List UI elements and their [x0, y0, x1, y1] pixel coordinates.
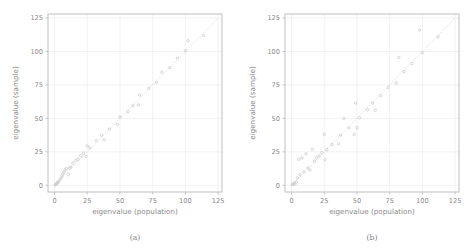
- y-axis-title-a: eigenvalue (sample): [11, 66, 20, 140]
- x-tick-label: 50: [116, 197, 124, 205]
- x-tick-label: 0: [289, 197, 293, 205]
- y-tick-label: 0: [276, 182, 280, 190]
- y-tick-label: 75: [35, 81, 43, 89]
- x-tick-label: 25: [83, 197, 91, 205]
- y-tick-label: 100: [267, 48, 280, 56]
- x-tick-label: 50: [353, 197, 361, 205]
- x-tick-label: 75: [385, 197, 393, 205]
- x-axis-a: 0255075100125: [52, 192, 224, 205]
- plot-a-content: 02550751001250255075100125eigenvalue (po…: [11, 14, 224, 242]
- subfigure-caption-a: (a): [130, 233, 140, 242]
- scatter-plot-b: 02550751001250255075100125eigenvalue (po…: [237, 0, 474, 248]
- plot-b-content: 02550751001250255075100125eigenvalue (po…: [248, 14, 461, 242]
- y-axis-title-b: eigenvalue (sample): [248, 66, 257, 140]
- x-tick-label: 125: [449, 197, 462, 205]
- x-axis-title-b: eigenvalue (population): [329, 207, 415, 216]
- x-tick-label: 125: [212, 197, 225, 205]
- y-tick-label: 0: [39, 182, 43, 190]
- subfigure-caption-b: (b): [367, 233, 378, 242]
- y-axis-a: 0255075100125: [30, 14, 48, 189]
- scatter-plot-a: 02550751001250255075100125eigenvalue (po…: [0, 0, 237, 248]
- y-tick-label: 50: [272, 115, 280, 123]
- y-tick-label: 25: [35, 148, 43, 156]
- panel-a: 02550751001250255075100125eigenvalue (po…: [0, 0, 237, 248]
- x-tick-label: 100: [416, 197, 429, 205]
- x-axis-b: 0255075100125: [289, 192, 461, 205]
- x-tick-label: 75: [148, 197, 156, 205]
- x-axis-title-a: eigenvalue (population): [92, 207, 178, 216]
- y-tick-label: 100: [30, 48, 43, 56]
- figure-panels-row: 02550751001250255075100125eigenvalue (po…: [0, 0, 474, 248]
- x-tick-label: 0: [52, 197, 56, 205]
- y-tick-label: 50: [35, 115, 43, 123]
- y-tick-label: 25: [272, 148, 280, 156]
- y-tick-label: 75: [272, 81, 280, 89]
- y-axis-b: 0255075100125: [267, 14, 285, 189]
- y-tick-label: 125: [267, 14, 280, 22]
- x-tick-label: 100: [179, 197, 192, 205]
- panel-b: 02550751001250255075100125eigenvalue (po…: [237, 0, 474, 248]
- y-tick-label: 125: [30, 14, 43, 22]
- x-tick-label: 25: [320, 197, 328, 205]
